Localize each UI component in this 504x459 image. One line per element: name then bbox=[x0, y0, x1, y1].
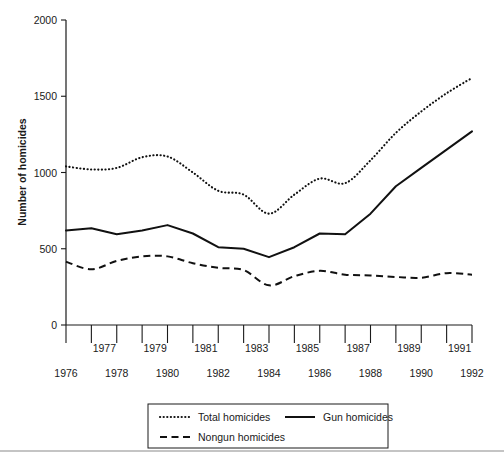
x-tick-label-1984: 1984 bbox=[257, 367, 281, 379]
legend-label-total-homicides: Total homicides bbox=[198, 411, 270, 423]
x-tick-label-1977: 1977 bbox=[93, 342, 117, 354]
series-line-nongun-homicides bbox=[66, 256, 472, 286]
x-tick-group: 1976197719781979198019811982198319841985… bbox=[54, 325, 484, 379]
y-tick-label-0: 0 bbox=[51, 319, 57, 331]
homicides-line-chart: 0500100015002000 19761977197819791980198… bbox=[0, 0, 504, 459]
series-line-total-homicides bbox=[66, 78, 472, 214]
legend: Total homicides Gun homicides Nongun hom… bbox=[148, 404, 393, 448]
x-tick-label-1978: 1978 bbox=[105, 367, 129, 379]
legend-label-gun-homicides: Gun homicides bbox=[323, 411, 393, 423]
y-tick-label-1500: 1500 bbox=[34, 90, 58, 102]
x-tick-label-1986: 1986 bbox=[308, 367, 332, 379]
x-tick-label-1981: 1981 bbox=[194, 342, 218, 354]
y-tick-label-500: 500 bbox=[39, 243, 57, 255]
x-tick-label-1987: 1987 bbox=[346, 342, 370, 354]
x-tick-label-1992: 1992 bbox=[460, 367, 484, 379]
x-tick-label-1990: 1990 bbox=[410, 367, 434, 379]
x-tick-label-1976: 1976 bbox=[54, 367, 78, 379]
y-axis-label: Number of homicides bbox=[16, 118, 28, 226]
x-tick-label-1979: 1979 bbox=[143, 342, 167, 354]
x-tick-label-1991: 1991 bbox=[448, 342, 472, 354]
figure-container: 0500100015002000 19761977197819791980198… bbox=[0, 0, 504, 459]
x-tick-label-1985: 1985 bbox=[296, 342, 320, 354]
x-tick-label-1988: 1988 bbox=[359, 367, 383, 379]
x-tick-label-1982: 1982 bbox=[207, 367, 231, 379]
x-tick-label-1983: 1983 bbox=[245, 342, 269, 354]
legend-label-nongun-homicides: Nongun homicides bbox=[198, 431, 285, 443]
series-line-gun-homicides bbox=[66, 131, 472, 257]
x-tick-label-1989: 1989 bbox=[397, 342, 421, 354]
x-tick-label-1980: 1980 bbox=[156, 367, 180, 379]
y-tick-label-1000: 1000 bbox=[34, 167, 58, 179]
y-tick-label-2000: 2000 bbox=[34, 14, 58, 26]
y-tick-group: 0500100015002000 bbox=[34, 14, 66, 331]
